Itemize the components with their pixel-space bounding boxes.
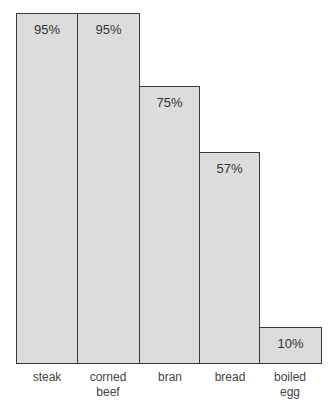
value-label-boiled-egg: 10% [260,336,321,351]
category-label-steak: steak [16,370,78,385]
value-label-bread: 57% [200,161,259,176]
label-line: steak [16,370,78,385]
category-label-bread: bread [199,370,261,385]
bar-corned-beef: 95% [77,13,140,364]
value-label-corned-beef: 95% [78,22,139,37]
value-label-bran: 75% [140,95,199,110]
label-line: corned [77,370,139,385]
label-line: boiled [259,370,321,385]
category-label-bran: bran [139,370,201,385]
label-line: bran [139,370,201,385]
category-label-corned-beef: corned beef [77,370,139,400]
bar-chart: 95% 95% 75% 57% 10% steak corned beef br… [0,0,336,411]
label-line: egg [259,385,321,400]
value-label-steak: 95% [17,22,77,37]
category-label-boiled-egg: boiled egg [259,370,321,400]
bar-bran: 75% [139,86,200,364]
label-line: beef [77,385,139,400]
bar-boiled-egg: 10% [259,327,322,364]
bar-bread: 57% [199,152,260,364]
label-line: bread [199,370,261,385]
bar-steak: 95% [16,13,78,364]
